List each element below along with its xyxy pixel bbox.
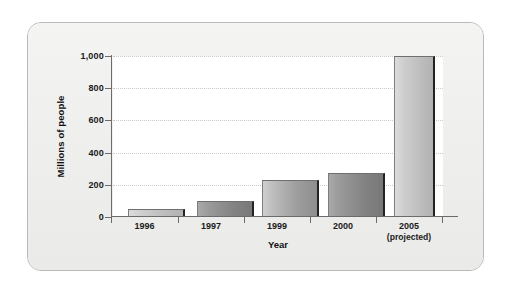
x-tick-5 [442,216,443,223]
x-category-label-1997: 1997 [178,221,244,232]
x-category-text-1997: 1997 [201,221,221,231]
y-tick-200 [105,185,112,186]
y-tick-400 [105,153,112,154]
y-axis-line [111,55,112,218]
plot-area [113,56,443,217]
y-tick-600 [105,120,112,121]
y-tick-label-600: 600 [88,115,104,125]
y-axis-title: Millions of people [52,88,68,184]
y-tick-label-0: 0 [99,212,104,222]
y-tick-label-1000: 1,000 [80,51,104,61]
y-tick-label-200: 200 [88,180,104,190]
chart-figure: 1,000 800 600 400 200 0 1996 1997 1999 2… [0,0,516,284]
x-axis-line [111,216,458,217]
x-category-text-1996: 1996 [134,221,154,231]
bar-1999 [262,180,319,217]
y-tick-1000 [105,56,112,57]
x-category-text-1999: 1999 [267,221,287,231]
y-tick-label-800: 800 [88,83,104,93]
x-category-label-1999: 1999 [244,221,310,232]
x-category-text-2005: 2005 [399,221,419,231]
y-tick-label-400: 400 [88,148,104,158]
bar-2005 [394,56,435,217]
x-axis-title: Year [113,239,443,250]
y-axis-title-text: Millions of people [55,95,66,177]
x-category-label-2000: 2000 [310,221,376,232]
y-tick-800 [105,88,112,89]
x-category-text-2000: 2000 [333,221,353,231]
x-category-label-1996: 1996 [111,221,178,232]
bar-1997 [197,201,254,217]
bar-2000 [328,173,385,217]
